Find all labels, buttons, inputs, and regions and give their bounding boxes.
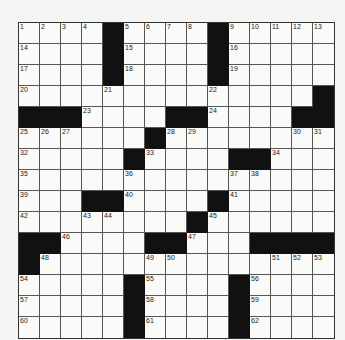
grid-cell[interactable]: [271, 170, 292, 191]
grid-cell[interactable]: 8: [187, 23, 208, 44]
grid-cell[interactable]: [103, 317, 124, 338]
grid-cell[interactable]: [250, 254, 271, 275]
grid-cell[interactable]: 57: [19, 296, 40, 317]
grid-cell[interactable]: [250, 212, 271, 233]
grid-cell[interactable]: 51: [271, 254, 292, 275]
grid-cell[interactable]: [61, 65, 82, 86]
grid-cell[interactable]: [124, 233, 145, 254]
grid-cell[interactable]: [292, 275, 313, 296]
grid-cell[interactable]: [82, 65, 103, 86]
grid-cell[interactable]: [271, 212, 292, 233]
grid-cell[interactable]: [229, 254, 250, 275]
grid-cell[interactable]: [124, 212, 145, 233]
grid-cell[interactable]: [271, 65, 292, 86]
grid-cell[interactable]: [166, 296, 187, 317]
grid-cell[interactable]: [250, 65, 271, 86]
grid-cell[interactable]: [271, 107, 292, 128]
grid-cell[interactable]: 3: [61, 23, 82, 44]
grid-cell[interactable]: [292, 44, 313, 65]
grid-cell[interactable]: [187, 296, 208, 317]
grid-cell[interactable]: 15: [124, 44, 145, 65]
grid-cell[interactable]: 50: [166, 254, 187, 275]
grid-cell[interactable]: 52: [292, 254, 313, 275]
grid-cell[interactable]: 4: [82, 23, 103, 44]
grid-cell[interactable]: [61, 170, 82, 191]
grid-cell[interactable]: [292, 149, 313, 170]
grid-cell[interactable]: [40, 65, 61, 86]
grid-cell[interactable]: [82, 170, 103, 191]
grid-cell[interactable]: [271, 128, 292, 149]
grid-cell[interactable]: [292, 191, 313, 212]
grid-cell[interactable]: 44: [103, 212, 124, 233]
grid-cell[interactable]: [40, 296, 61, 317]
grid-cell[interactable]: [271, 296, 292, 317]
grid-cell[interactable]: [166, 149, 187, 170]
grid-cell[interactable]: 14: [19, 44, 40, 65]
grid-cell[interactable]: 53: [313, 254, 334, 275]
grid-cell[interactable]: 30: [292, 128, 313, 149]
grid-cell[interactable]: [208, 128, 229, 149]
grid-cell[interactable]: 40: [124, 191, 145, 212]
grid-cell[interactable]: [271, 191, 292, 212]
grid-cell[interactable]: 33: [145, 149, 166, 170]
grid-cell[interactable]: [187, 254, 208, 275]
grid-cell[interactable]: [82, 317, 103, 338]
grid-cell[interactable]: 24: [208, 107, 229, 128]
grid-cell[interactable]: 16: [229, 44, 250, 65]
grid-cell[interactable]: [229, 86, 250, 107]
grid-cell[interactable]: [292, 296, 313, 317]
grid-cell[interactable]: 59: [250, 296, 271, 317]
grid-cell[interactable]: [124, 86, 145, 107]
grid-cell[interactable]: [313, 44, 334, 65]
grid-cell[interactable]: 58: [145, 296, 166, 317]
grid-cell[interactable]: 9: [229, 23, 250, 44]
grid-cell[interactable]: [40, 86, 61, 107]
grid-cell[interactable]: [187, 44, 208, 65]
grid-cell[interactable]: [292, 212, 313, 233]
grid-cell[interactable]: [145, 170, 166, 191]
grid-cell[interactable]: 62: [250, 317, 271, 338]
grid-cell[interactable]: 60: [19, 317, 40, 338]
grid-cell[interactable]: [103, 254, 124, 275]
grid-cell[interactable]: [124, 254, 145, 275]
grid-cell[interactable]: [103, 107, 124, 128]
grid-cell[interactable]: 42: [19, 212, 40, 233]
grid-cell[interactable]: [82, 149, 103, 170]
grid-cell[interactable]: [250, 86, 271, 107]
grid-cell[interactable]: 32: [19, 149, 40, 170]
grid-cell[interactable]: [271, 86, 292, 107]
grid-cell[interactable]: 31: [313, 128, 334, 149]
grid-cell[interactable]: [103, 233, 124, 254]
grid-cell[interactable]: 22: [208, 86, 229, 107]
grid-cell[interactable]: [313, 275, 334, 296]
grid-cell[interactable]: 1: [19, 23, 40, 44]
grid-cell[interactable]: [250, 107, 271, 128]
grid-cell[interactable]: [229, 233, 250, 254]
grid-cell[interactable]: 36: [124, 170, 145, 191]
grid-cell[interactable]: [40, 212, 61, 233]
grid-cell[interactable]: [145, 212, 166, 233]
grid-cell[interactable]: [208, 170, 229, 191]
grid-cell[interactable]: 38: [250, 170, 271, 191]
grid-cell[interactable]: [313, 296, 334, 317]
grid-cell[interactable]: [166, 170, 187, 191]
grid-cell[interactable]: [82, 86, 103, 107]
grid-cell[interactable]: [166, 212, 187, 233]
grid-cell[interactable]: 34: [271, 149, 292, 170]
grid-cell[interactable]: [40, 44, 61, 65]
grid-cell[interactable]: [103, 128, 124, 149]
grid-cell[interactable]: [187, 86, 208, 107]
grid-cell[interactable]: [61, 149, 82, 170]
grid-cell[interactable]: [61, 212, 82, 233]
grid-cell[interactable]: 18: [124, 65, 145, 86]
grid-cell[interactable]: 10: [250, 23, 271, 44]
grid-cell[interactable]: 6: [145, 23, 166, 44]
grid-cell[interactable]: 54: [19, 275, 40, 296]
grid-cell[interactable]: 17: [19, 65, 40, 86]
grid-cell[interactable]: [166, 86, 187, 107]
grid-cell[interactable]: [166, 65, 187, 86]
grid-cell[interactable]: [208, 275, 229, 296]
grid-cell[interactable]: 41: [229, 191, 250, 212]
grid-cell[interactable]: [229, 107, 250, 128]
grid-cell[interactable]: 56: [250, 275, 271, 296]
